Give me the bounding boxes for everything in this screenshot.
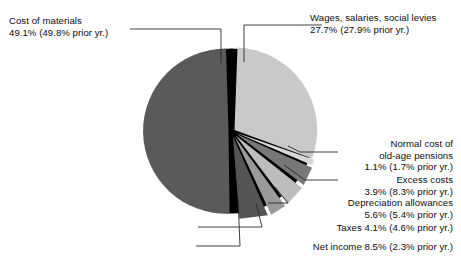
pie-chart-figure: Cost of materials 49.1% (49.8% prior yr.… [0,0,461,280]
label-net-income-line1: Net income 8.5% (2.3% prior yr.) [313,241,453,252]
label-pensions-line3: 1.1% (1.7% prior yr.) [333,161,453,173]
label-cost-of-materials-line2: 49.1% (49.8% prior yr.) [9,27,108,39]
label-cost-of-materials: Cost of materials 49.1% (49.8% prior yr.… [9,15,108,38]
label-excess-costs-line2: 3.9% (8.3% prior yr.) [313,186,453,198]
label-normal-cost-of-old-age-pensions: Normal cost of old-age pensions 1.1% (1.… [333,138,453,173]
label-excess-costs: Excess costs 3.9% (8.3% prior yr.) [313,174,453,197]
label-net-income: Net income 8.5% (2.3% prior yr.) [243,241,453,253]
label-pensions-line1: Normal cost of [390,138,453,149]
label-depreciation-allowances: Depreciation allowances 5.6% (5.4% prior… [283,197,453,220]
pie-slice-cost-of-materials[interactable] [143,49,230,214]
label-wages-line1: Wages, salaries, social levies [310,12,436,23]
label-taxes: Taxes 4.1% (4.6% prior yr.) [263,222,453,234]
label-cost-of-materials-line1: Cost of materials [9,15,82,26]
label-wages-salaries-social-levies: Wages, salaries, social levies 27.7% (27… [310,12,436,35]
label-wages-line2: 27.7% (27.9% prior yr.) [310,24,436,36]
label-taxes-line1: Taxes 4.1% (4.6% prior yr.) [336,222,453,233]
label-pensions-line2: old-age pensions [333,150,453,162]
label-excess-costs-line1: Excess costs [396,174,453,185]
label-depreciation-line1: Depreciation allowances [348,197,453,208]
label-depreciation-line2: 5.6% (5.4% prior yr.) [283,209,453,221]
